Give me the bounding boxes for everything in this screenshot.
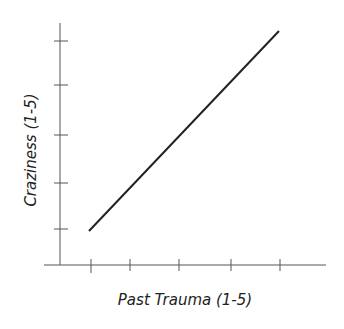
x-axis-label: Past Trauma (1-5)	[118, 291, 252, 309]
data-line	[89, 31, 279, 231]
x-axis	[44, 259, 326, 273]
y-axis	[54, 23, 68, 265]
chart: Past Trauma (1-5) Craziness (1-5)	[0, 0, 344, 329]
y-axis-label: Craziness (1-5)	[22, 93, 40, 206]
